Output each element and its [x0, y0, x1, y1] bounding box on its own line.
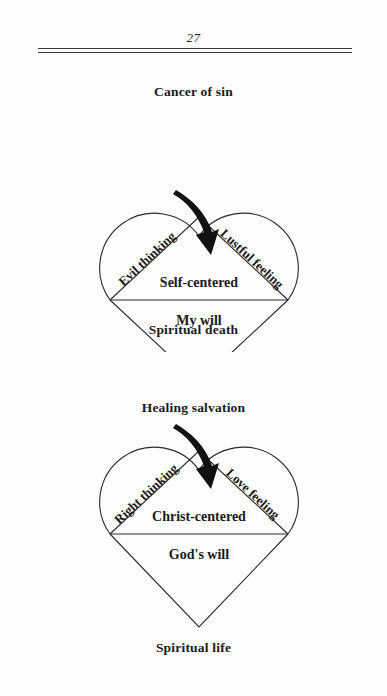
- heart-figure-sin: Evil thinking Lustful feeling Self-cente…: [0, 72, 387, 352]
- header-rule-top: [38, 48, 352, 49]
- heart-diagram-sin: Cancer of sin Evil thinking Lustful feel…: [0, 72, 387, 342]
- heart-figure-salvation: Right thinking Love feeling Christ-cente…: [0, 388, 387, 668]
- page-number: 27: [0, 30, 387, 46]
- label-gods-will: God's will: [169, 547, 229, 562]
- diagram-caption-bottom-sin: Spiritual death: [0, 322, 387, 338]
- heart-diagram-salvation: Healing salvation Right thinking Love fe…: [0, 388, 387, 668]
- page-header: 27: [0, 0, 387, 60]
- diagram-caption-bottom-salvation: Spiritual life: [0, 640, 387, 656]
- label-christ-centered: Christ-centered: [152, 509, 246, 524]
- header-rule-bottom: [38, 52, 352, 53]
- label-self-centered: Self-centered: [160, 275, 238, 290]
